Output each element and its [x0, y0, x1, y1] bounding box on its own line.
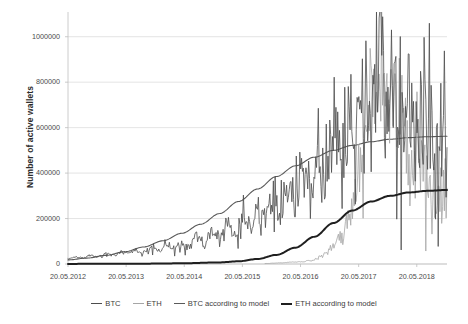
chart-container: Number of active wallets 1000000 800000 … [0, 0, 468, 324]
legend-swatch-btc-model [174, 303, 185, 304]
legend-label-btc: BTC [105, 299, 120, 308]
x-tick-label: 20.05.2018 [382, 272, 452, 281]
legend-item-eth[interactable]: ETH [133, 299, 162, 308]
plot-top-mask [68, 0, 447, 12]
legend-label-eth: ETH [147, 299, 162, 308]
legend-swatch-eth-model [281, 303, 292, 305]
legend-item-btc[interactable]: BTC [91, 299, 120, 308]
chart-legend: BTC ETH BTC according to model ETH accor… [0, 299, 468, 308]
legend-item-btc-model[interactable]: BTC according to model [174, 299, 269, 308]
legend-swatch-eth [133, 303, 144, 304]
legend-swatch-btc [91, 303, 102, 304]
legend-item-eth-model[interactable]: ETH according to model [281, 299, 376, 308]
legend-label-btc-model: BTC according to model [188, 299, 269, 308]
series-line-btc [68, 9, 447, 259]
legend-label-eth-model: ETH according to model [295, 299, 376, 308]
series-line-btc-model [68, 136, 447, 260]
